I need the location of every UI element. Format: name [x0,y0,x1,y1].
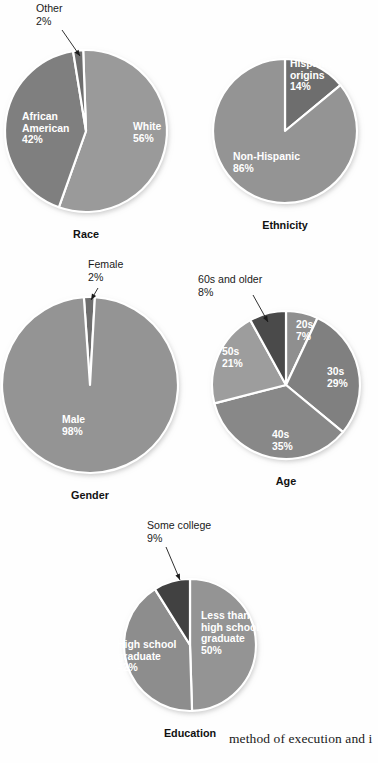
pie-chart-figure: White56%AfricanAmerican42%Other2%RaceHis… [0,0,378,763]
callout-label: Some college9% [147,519,211,544]
slice-label: 20s7% [296,319,314,342]
chart-title-age: Age [276,475,296,487]
chart-title-education: Education [164,727,216,739]
chart-title-race: Race [73,228,99,240]
callout-label: Other2% [36,2,63,27]
charts-canvas: White56%AfricanAmerican42%Other2%RaceHis… [0,0,378,763]
chart-title-gender: Gender [71,489,110,501]
pie-chart-age: 20s7%30s29%40s35%50s21%60s and older8%Ag… [198,273,360,487]
pie-slice[interactable] [190,579,256,711]
pie-chart-ethnicity: Hispanicorigins14%Non-Hispanic86%Ethnici… [213,58,357,231]
pie-chart-education: Less thanhigh schoolgraduate50%High scho… [117,519,259,739]
pie-chart-race: White56%AfricanAmerican42%Other2%Race [5,2,167,240]
callout-label: Female2% [88,258,123,283]
slice-label: Male98% [62,414,85,437]
pie-chart-gender: Female2%Male98%Gender [2,258,178,501]
chart-title-ethnicity: Ethnicity [262,219,308,231]
footer-body-text: method of execution and i [229,731,372,747]
callout-label: 60s and older8% [198,273,263,298]
